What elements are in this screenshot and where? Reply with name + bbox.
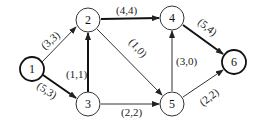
node-label-6: 6 [231,55,237,69]
edge-label-2-4: (4,4) [116,4,137,17]
node-label-1: 1 [29,62,35,76]
node-1: 1 [20,57,44,81]
node-4: 4 [160,6,184,30]
node-3: 3 [76,92,100,116]
edge-2-4 [101,18,159,19]
node-2: 2 [76,8,100,32]
flow-network-diagram: (3,3) (5,3) (1,1) (4,4) (1,0) (2,2) (3,0… [0,0,260,121]
edge-label-1-2: (3,3) [38,29,63,53]
edge-label-3-2: (1,1) [66,68,87,81]
edge-label-5-4: (3,0) [176,55,197,68]
node-5: 5 [160,92,184,116]
edge-label-2-5: (1,0) [126,36,150,61]
node-6: 6 [222,50,246,74]
edge-label-5-6: (2,2) [197,85,222,108]
edge-label-3-5: (2,2) [121,106,142,119]
edge-labels: (3,3) (5,3) (1,1) (4,4) (1,0) (2,2) (3,0… [34,4,221,119]
node-label-4: 4 [169,11,175,25]
edge-2-5 [97,29,162,95]
node-label-5: 5 [169,97,175,111]
node-label-2: 2 [85,13,91,27]
node-label-3: 3 [85,97,91,111]
